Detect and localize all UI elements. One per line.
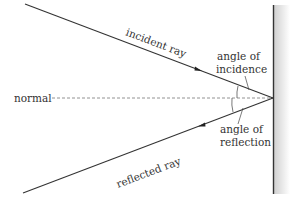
mirror-shading (274, 5, 290, 194)
reflection-arc (232, 98, 233, 112)
reflected-arrow-icon (198, 123, 206, 127)
angle-reflection-label-1: angle of (220, 123, 264, 135)
angle-reflection-label-2: reflection (220, 136, 271, 148)
reflected-ray-label: reflected ray (114, 154, 182, 189)
incidence-arc (237, 86, 238, 98)
angle-incidence-label-2: incidence (216, 63, 267, 75)
normal-label: normal (14, 92, 52, 104)
incident-ray-label: incident ray (124, 26, 188, 60)
angle-incidence-label-1: angle of (217, 50, 261, 62)
incident-arrow-icon (195, 67, 203, 72)
reflection-diagram: incident ray reflected ray normal angle … (0, 0, 290, 211)
